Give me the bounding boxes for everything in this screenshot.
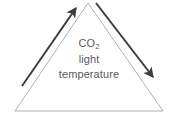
left-arrow-up bbox=[22, 8, 76, 86]
diagram-svg bbox=[0, 0, 178, 120]
right-arrow-down bbox=[96, 3, 153, 77]
triangle-outline bbox=[15, 3, 163, 111]
diagram-canvas: CO2 light temperature bbox=[0, 0, 178, 120]
